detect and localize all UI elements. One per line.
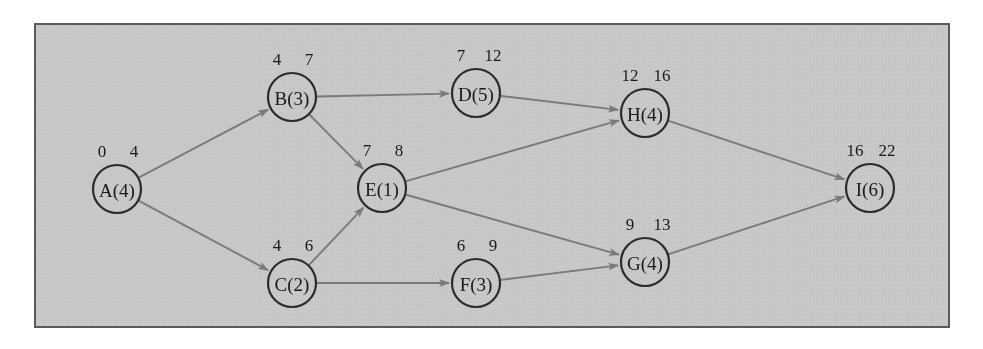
edge-f-to-g <box>501 265 618 280</box>
node-label-i: I(6) <box>856 179 884 201</box>
latest-time-g: 13 <box>654 215 671 234</box>
earliest-time-c: 4 <box>273 236 282 255</box>
node-label-f: F(3) <box>460 274 493 296</box>
edge-h-to-i <box>669 121 845 180</box>
earliest-time-h: 12 <box>622 66 639 85</box>
latest-time-h: 16 <box>654 66 671 85</box>
edge-a-to-b <box>139 110 268 178</box>
diagram-stage: A(4)04B(3)47C(2)46D(5)712E(1)78F(3)69G(4… <box>0 0 983 349</box>
latest-time-i: 22 <box>879 141 896 160</box>
node-a[interactable]: A(4)04 <box>93 142 141 213</box>
edge-a-to-c <box>139 201 268 270</box>
node-d[interactable]: D(5)712 <box>452 46 502 117</box>
edge-g-to-i <box>669 196 845 254</box>
node-i[interactable]: I(6)1622 <box>846 141 896 212</box>
latest-time-e: 8 <box>395 141 404 160</box>
edge-c-to-e <box>309 208 363 265</box>
activity-network-graph: A(4)04B(3)47C(2)46D(5)712E(1)78F(3)69G(4… <box>0 0 983 349</box>
node-b[interactable]: B(3)47 <box>268 50 316 121</box>
edge-e-to-g <box>406 195 619 255</box>
latest-time-c: 6 <box>305 236 314 255</box>
earliest-time-a: 0 <box>98 142 107 161</box>
node-label-c: C(2) <box>275 274 310 296</box>
latest-time-d: 12 <box>485 46 502 65</box>
earliest-time-f: 6 <box>457 236 466 255</box>
node-g[interactable]: G(4)913 <box>621 215 671 286</box>
node-label-d: D(5) <box>458 84 494 106</box>
latest-time-a: 4 <box>130 142 139 161</box>
earliest-time-b: 4 <box>273 50 282 69</box>
node-c[interactable]: C(2)46 <box>268 236 316 307</box>
earliest-time-g: 9 <box>626 215 635 234</box>
edge-b-to-d <box>317 94 449 97</box>
latest-time-f: 9 <box>489 236 498 255</box>
node-e[interactable]: E(1)78 <box>358 141 406 212</box>
node-label-a: A(4) <box>99 180 135 202</box>
node-label-e: E(1) <box>365 179 399 201</box>
earliest-time-e: 7 <box>363 141 372 160</box>
node-label-b: B(3) <box>275 88 310 110</box>
node-f[interactable]: F(3)69 <box>452 236 500 307</box>
edge-d-to-h <box>501 96 618 110</box>
node-label-h: H(4) <box>627 104 663 126</box>
edge-e-to-h <box>406 120 619 181</box>
nodes-layer: A(4)04B(3)47C(2)46D(5)712E(1)78F(3)69G(4… <box>93 46 896 307</box>
node-label-g: G(4) <box>627 253 663 275</box>
edge-b-to-e <box>310 115 363 169</box>
latest-time-b: 7 <box>305 50 314 69</box>
earliest-time-i: 16 <box>847 141 864 160</box>
node-h[interactable]: H(4)1216 <box>621 66 671 137</box>
earliest-time-d: 7 <box>457 46 466 65</box>
